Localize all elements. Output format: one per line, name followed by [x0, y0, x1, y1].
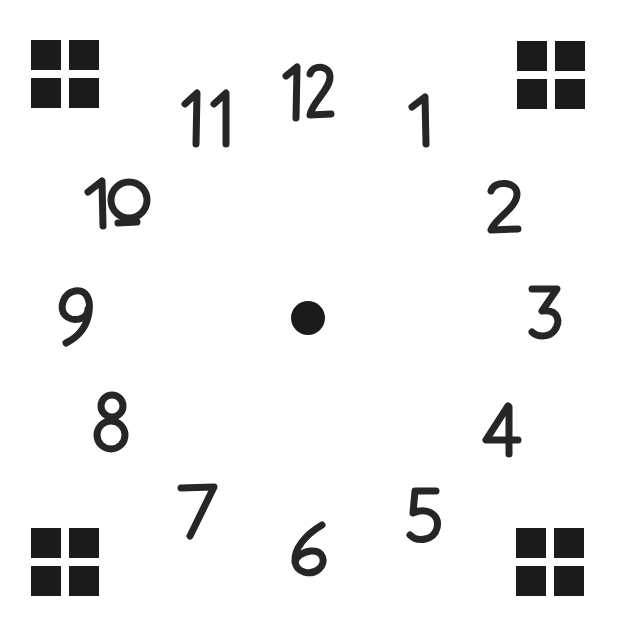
- clock-numeral-11: [181, 88, 235, 148]
- marker-square: [31, 566, 61, 596]
- marker-square: [31, 528, 61, 558]
- clock-numeral-8: [94, 392, 130, 452]
- clock-numeral-6: [289, 521, 331, 577]
- marker-top-left: [31, 40, 99, 108]
- clock-numeral-7: [177, 482, 219, 540]
- clock-numeral-3: [527, 284, 563, 340]
- marker-square: [517, 79, 547, 109]
- clock-numeral-12: [282, 62, 334, 122]
- marker-square: [555, 79, 585, 109]
- clock-canvas: [0, 0, 619, 629]
- marker-bottom-right: [516, 528, 584, 596]
- marker-square: [69, 566, 99, 596]
- clock-numeral-5: [406, 486, 442, 544]
- marker-square: [69, 528, 99, 558]
- marker-square: [554, 566, 584, 596]
- marker-square: [555, 41, 585, 71]
- clock-center-dot: [291, 301, 325, 335]
- marker-square: [31, 40, 61, 70]
- marker-top-right: [517, 41, 585, 109]
- clock-numeral-10: [84, 176, 150, 238]
- marker-square: [31, 78, 61, 108]
- marker-square: [69, 40, 99, 70]
- marker-square: [516, 566, 546, 596]
- clock-numeral-1: [408, 92, 438, 148]
- marker-square: [554, 528, 584, 558]
- clock-numeral-9: [58, 285, 96, 347]
- marker-bottom-left: [31, 528, 99, 596]
- marker-square: [517, 41, 547, 71]
- clock-numeral-2: [484, 178, 522, 234]
- clock-numeral-4: [482, 402, 522, 458]
- marker-square: [69, 78, 99, 108]
- marker-square: [516, 528, 546, 558]
